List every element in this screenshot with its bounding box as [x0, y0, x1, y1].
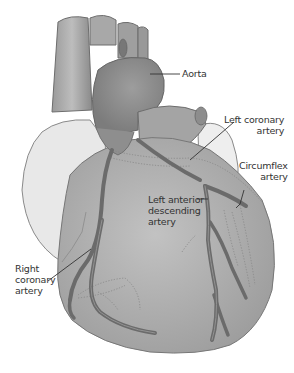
heart-diagram: Aorta Left coronary artery Circumflex ar…: [0, 0, 294, 373]
superior-vena-cava: [52, 17, 92, 112]
brachiocephalic-vessels: [90, 15, 148, 60]
label-left-anterior-descending-artery: Left anterior descending artery: [148, 194, 204, 227]
label-aorta: Aorta: [182, 68, 207, 79]
label-right-coronary-artery: Right coronary artery: [15, 263, 55, 296]
label-left-coronary-artery: Left coronary artery: [224, 114, 284, 136]
heart-illustration: [0, 0, 294, 373]
label-circumflex-artery: Circumflex artery: [239, 160, 288, 182]
